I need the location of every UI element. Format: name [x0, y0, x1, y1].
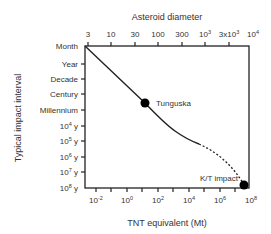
left-tick-labels: Month Year Decade Century Millennium 104… — [40, 42, 79, 193]
svg-text:102: 102 — [152, 195, 164, 205]
svg-text:103: 103 — [199, 29, 211, 39]
svg-text:Year: Year — [62, 60, 79, 69]
bottom-tick-labels: 10-2 100 102 104 106 108 — [89, 195, 257, 205]
svg-text:3: 3 — [86, 30, 91, 39]
svg-text:10-2: 10-2 — [89, 195, 103, 205]
svg-text:30: 30 — [131, 30, 140, 39]
svg-text:Decade: Decade — [50, 75, 78, 84]
tunguska-label: Tunguska — [156, 99, 191, 108]
svg-text:10: 10 — [107, 30, 116, 39]
svg-text:105 y: 105 y — [60, 136, 78, 146]
svg-text:Century: Century — [50, 90, 78, 99]
top-tick-labels: 3 10 30 100 300 103 3x103 104 — [86, 29, 259, 39]
plot-frame — [85, 46, 249, 188]
chart: Tunguska K/T impact Asteroid diameter TN… — [0, 0, 271, 234]
curve-solid — [85, 46, 199, 144]
kt-label: K/T impact — [200, 174, 239, 183]
svg-text:106: 106 — [214, 195, 226, 205]
svg-text:Millennium: Millennium — [40, 106, 79, 115]
svg-text:3x103: 3x103 — [219, 29, 239, 39]
svg-text:104: 104 — [183, 195, 195, 205]
svg-text:100: 100 — [151, 30, 165, 39]
svg-text:300: 300 — [175, 30, 189, 39]
svg-text:104: 104 — [247, 29, 259, 39]
svg-text:Month: Month — [56, 42, 78, 51]
x2-axis-title: Asteroid diameter — [132, 12, 203, 22]
svg-text:107 y: 107 y — [60, 167, 78, 177]
svg-text:104 y: 104 y — [60, 121, 78, 131]
y-axis-title: Typical impact interval — [13, 74, 23, 163]
svg-text:100: 100 — [121, 195, 133, 205]
svg-text:106 y: 106 y — [60, 152, 78, 162]
svg-text:108 y: 108 y — [60, 183, 78, 193]
tunguska-point — [141, 99, 150, 108]
svg-text:108: 108 — [245, 195, 257, 205]
kt-point — [240, 181, 249, 190]
x-axis-title: TNT equivalent (Mt) — [127, 218, 206, 228]
